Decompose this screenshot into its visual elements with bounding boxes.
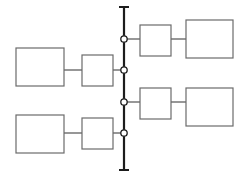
box-right-lower-inner[interactable]	[140, 88, 171, 119]
box-right-lower-outer[interactable]	[186, 88, 233, 126]
bus-group	[119, 7, 129, 170]
box-left-lower-outer[interactable]	[16, 115, 64, 153]
diagram-canvas	[0, 0, 245, 177]
box-right-upper-inner[interactable]	[140, 25, 171, 56]
bus-node-1[interactable]	[121, 36, 127, 42]
box-left-upper-inner[interactable]	[82, 55, 113, 86]
diagram-svg	[0, 0, 245, 177]
box-left-lower-inner[interactable]	[82, 118, 113, 149]
bus-node-2[interactable]	[121, 67, 127, 73]
box-right-upper-outer[interactable]	[186, 20, 233, 58]
bus-node-3[interactable]	[121, 99, 127, 105]
box-left-upper-outer[interactable]	[16, 48, 64, 86]
bus-node-4[interactable]	[121, 130, 127, 136]
